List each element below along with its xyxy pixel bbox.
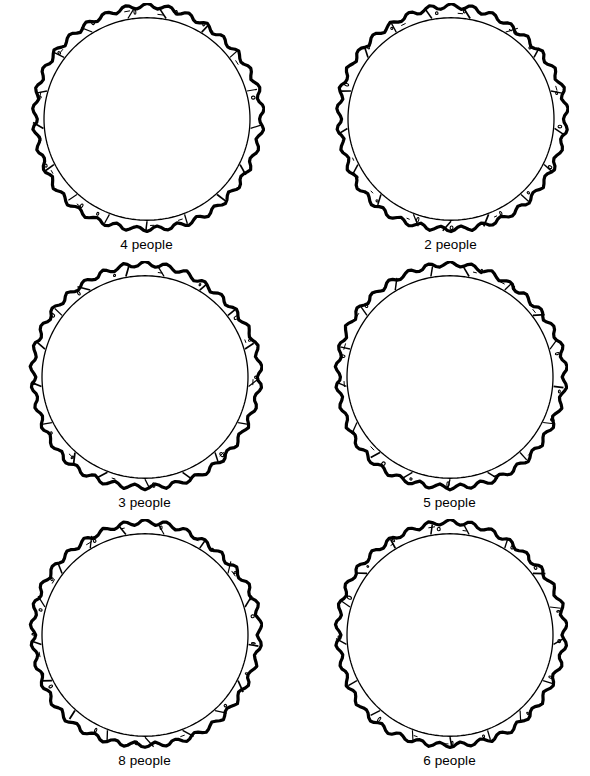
bamboo-joint (520, 711, 521, 723)
bamboo-joint (532, 315, 544, 316)
bamboo-ring-drawing (332, 519, 568, 751)
ring-label: 8 people (118, 753, 171, 768)
ring-inner-edge (347, 534, 553, 737)
worksheet-page: 4 people 2 people 3 people 5 people 8 pe… (0, 0, 590, 776)
ring-inner-edge (42, 534, 248, 737)
bamboo-ring-drawing (332, 261, 568, 493)
ring-cell: 8 people (0, 516, 295, 776)
bamboo-ring-drawing (27, 261, 263, 493)
bamboo-joint (553, 386, 563, 387)
bamboo-ring-drawing (333, 3, 569, 235)
bamboo-ring-icon (27, 519, 263, 751)
ring-inner-edge (347, 276, 553, 479)
ring-cell: 6 people (295, 516, 590, 776)
bamboo-ring-drawing (29, 3, 265, 235)
bamboo-ring-icon (29, 3, 265, 235)
ring-label: 2 people (424, 237, 477, 252)
bamboo-ring-icon (27, 261, 263, 493)
bamboo-ring-icon (332, 519, 568, 751)
ring-cell: 5 people (295, 258, 590, 516)
bamboo-ring-icon (332, 261, 568, 493)
bamboo-ring-icon (333, 3, 569, 235)
ring-cell: 4 people (0, 0, 295, 258)
ring-grid: 4 people 2 people 3 people 5 people 8 pe… (0, 0, 590, 776)
ring-cell: 3 people (0, 258, 295, 516)
ring-label: 4 people (120, 237, 173, 252)
ring-label: 5 people (423, 495, 476, 510)
bamboo-tick (157, 272, 162, 273)
bamboo-tick (462, 530, 466, 531)
ring-cell: 2 people (295, 0, 590, 258)
ring-label: 3 people (118, 495, 171, 510)
ring-inner-edge (44, 18, 250, 221)
bamboo-ring-drawing (27, 519, 263, 751)
ring-inner-edge (348, 18, 554, 221)
ring-inner-edge (42, 276, 248, 479)
ring-label: 6 people (423, 753, 476, 768)
bamboo-joint (412, 730, 413, 741)
